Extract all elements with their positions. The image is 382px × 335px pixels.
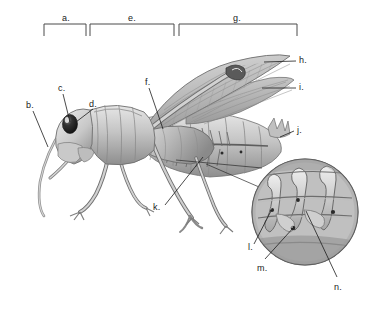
label-n: n. — [334, 283, 342, 292]
label-b: b. — [26, 101, 34, 110]
label-j: j. — [297, 126, 302, 135]
label-h: h. — [299, 56, 307, 65]
bracket-group — [44, 24, 297, 36]
thorax — [86, 100, 155, 172]
label-c: c. — [58, 84, 65, 93]
label-g: g. — [233, 14, 241, 23]
bracket-a — [44, 24, 86, 36]
leader-b — [33, 111, 48, 147]
label-d: d. — [89, 100, 97, 109]
midleg — [70, 158, 108, 220]
label-k: k. — [153, 203, 160, 212]
figure-artwork — [0, 0, 382, 335]
label-m: m. — [257, 264, 267, 273]
cerci — [268, 118, 290, 138]
label-l: l. — [248, 243, 253, 252]
head — [56, 109, 94, 164]
bracket-e — [90, 24, 174, 36]
magnified-inset — [250, 156, 362, 270]
label-i: i. — [299, 83, 304, 92]
label-a: a. — [62, 14, 70, 23]
foreleg — [50, 156, 154, 216]
label-e: e. — [128, 14, 136, 23]
label-f: f. — [145, 78, 150, 87]
grasshopper-anatomy-figure: a. b. c. d. e. f. g. h. i. j. k. l. m. n… — [0, 0, 382, 335]
bracket-g — [179, 24, 297, 36]
compound-eye — [63, 115, 78, 134]
